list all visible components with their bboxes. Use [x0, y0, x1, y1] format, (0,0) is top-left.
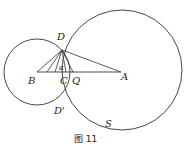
label-d: D: [56, 31, 65, 42]
label-b: B: [27, 75, 35, 86]
figure-caption: 图 11: [74, 134, 97, 144]
label-c: C: [60, 75, 68, 86]
label-alpha: α: [59, 64, 64, 72]
label-d-prime: D': [53, 105, 65, 116]
segment-da: [62, 50, 121, 72]
circle-a: [62, 10, 182, 130]
geometry-diagram: D B α C Q A D' S 图 11: [0, 0, 184, 144]
label-q: Q: [72, 75, 80, 86]
label-s: S: [105, 118, 112, 129]
label-a: A: [120, 71, 128, 82]
